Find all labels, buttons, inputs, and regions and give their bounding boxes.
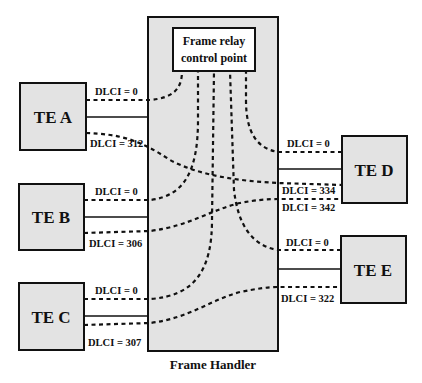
dlci-e-322: DLCI = 322	[281, 293, 334, 304]
te-c: TE C	[19, 283, 84, 350]
dlci-a-312: DLCI = 312	[90, 138, 143, 149]
te-b: TE B	[19, 184, 84, 250]
dlci-e-0: DLCI = 0	[286, 237, 329, 248]
te-c-label: TE C	[31, 308, 70, 327]
te-e: TE E	[341, 236, 406, 303]
te-e-label: TE E	[354, 261, 392, 280]
control-point-line1: Frame relay	[183, 34, 246, 48]
dlci-b-0: DLCI = 0	[95, 186, 138, 197]
dlci-b-306: DLCI = 306	[89, 238, 142, 249]
te-a-label: TE A	[34, 108, 73, 127]
frame-handler-caption: Frame Handler	[170, 357, 257, 372]
te-b-label: TE B	[32, 208, 70, 227]
dlci-d-334: DLCI = 334	[282, 185, 336, 196]
dlci-c-0: DLCI = 0	[95, 285, 138, 296]
dlci-a-0: DLCI = 0	[95, 86, 138, 97]
te-d: TE D	[342, 136, 407, 203]
frame-relay-diagram: Frame relay control point TE A TE B TE C…	[0, 0, 422, 383]
te-d-label: TE D	[354, 161, 393, 180]
control-point-line2: control point	[181, 51, 247, 65]
dlci-c-307: DLCI = 307	[88, 337, 141, 348]
te-a: TE A	[20, 83, 86, 150]
dlci-d-0: DLCI = 0	[287, 138, 330, 149]
dlci-d-342: DLCI = 342	[282, 202, 335, 213]
